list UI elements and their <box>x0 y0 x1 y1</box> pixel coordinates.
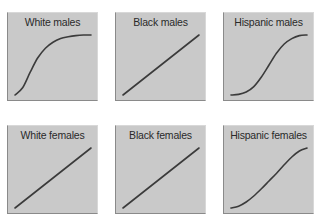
chart-panel-hispanic-females: Hispanic females <box>223 125 314 214</box>
chart-panel-white-males: White males <box>7 12 98 101</box>
series-line <box>231 35 307 95</box>
chart-plot <box>224 13 313 100</box>
chart-plot <box>8 126 97 213</box>
chart-plot <box>116 13 205 100</box>
series-line <box>123 148 199 208</box>
chart-plot <box>8 13 97 100</box>
chart-plot <box>224 126 313 213</box>
chart-panel-white-females: White females <box>7 125 98 214</box>
chart-panel-hispanic-males: Hispanic males <box>223 12 314 101</box>
series-line <box>231 148 307 208</box>
series-line <box>15 148 91 208</box>
series-line <box>15 35 91 95</box>
chart-plot <box>116 126 205 213</box>
chart-panel-black-males: Black males <box>115 12 206 101</box>
series-line <box>123 35 199 95</box>
chart-panel-black-females: Black females <box>115 125 206 214</box>
